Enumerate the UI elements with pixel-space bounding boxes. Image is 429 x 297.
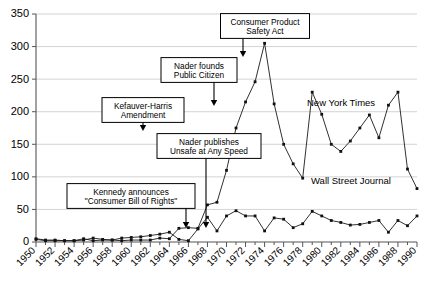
data-point [235,127,238,130]
data-point [311,91,314,94]
y-axis: 050100150200250300350 [11,7,36,247]
x-axis-tick-label: 1982 [319,244,343,268]
y-axis-tick-label: 150 [11,138,29,150]
data-point [397,91,400,94]
annotation-text: "Consumer Bill of Rights" [85,196,178,206]
data-point [168,231,171,234]
data-point [416,215,419,218]
data-point [92,237,95,240]
x-axis-tick-label: 1964 [147,244,171,268]
data-point [244,215,247,218]
series-label: New York Times [307,97,375,108]
data-point [177,227,180,230]
data-point [101,239,104,242]
data-point [158,233,161,236]
annotation-text: Amendment [121,110,166,120]
y-axis-tick-label: 200 [11,105,29,117]
data-point [44,239,47,242]
y-axis-tick-label: 50 [17,203,29,215]
y-axis-tick-label: 100 [11,170,29,182]
annotation-arrowhead [240,51,246,57]
data-point [244,101,247,104]
data-point [292,162,295,165]
data-point [139,239,142,242]
x-axis-tick-label: 1976 [262,244,286,268]
x-axis: 1950195219541956195819601962196419661968… [14,242,419,268]
data-point [273,103,276,106]
data-point [120,239,123,242]
annotation-cpsa: Consumer ProductSafety Act [221,14,310,57]
annotation-kefauver-harris: Kefauver-HarrisAmendment [102,98,184,131]
x-axis-tick-label: 1986 [357,244,381,268]
data-point [339,150,342,153]
x-axis-tick-label: 1958 [90,244,114,268]
data-point [149,234,152,237]
y-axis-tick-label: 350 [11,7,29,19]
annotations: Kennedy announces"Consumer Bill of Right… [67,14,310,228]
data-point [139,235,142,238]
data-point [378,136,381,139]
data-point [73,239,76,242]
x-axis-tick-label: 1950 [14,244,38,268]
annotation-text: Public Citizen [174,70,225,80]
data-point [368,114,371,117]
x-axis-tick-label: 1960 [109,244,133,268]
data-point [235,209,238,212]
data-point [187,239,190,242]
data-point [149,239,152,242]
line-chart: 050100150200250300350 195019521954195619… [0,0,429,297]
data-point [378,219,381,222]
data-point [216,201,219,204]
data-point [387,231,390,234]
data-point [282,218,285,221]
data-point [330,143,333,146]
data-point [254,215,257,218]
data-point [263,230,266,233]
annotation-nader-publishes: Nader publishesUnsafe at Any Speed [157,134,261,228]
data-point [130,236,133,239]
data-point [416,187,419,190]
data-point [130,239,133,242]
data-point [311,210,314,213]
data-point [92,239,95,242]
data-point [120,237,123,240]
x-axis-tick-label: 1978 [281,244,305,268]
data-point [397,219,400,222]
x-axis-tick-label: 1990 [395,244,419,268]
x-axis-tick-label: 1980 [300,244,324,268]
data-point [273,217,276,220]
data-point [292,226,295,229]
data-point [387,104,390,107]
data-point [282,143,285,146]
x-axis-tick-label: 1956 [71,244,95,268]
x-axis-tick-label: 1970 [204,244,228,268]
annotation-arrowhead [140,125,146,131]
x-axis-tick-label: 1972 [223,244,247,268]
data-point [225,215,228,218]
annotation-arrowhead [211,100,217,106]
data-point [263,42,266,45]
data-point [177,238,180,241]
annotation-text: Safety Act [246,26,284,36]
data-point [197,228,200,231]
x-axis-tick-label: 1984 [338,244,362,268]
x-axis-tick-label: 1952 [33,244,57,268]
data-point [158,237,161,240]
chart-container: 050100150200250300350 195019521954195619… [0,0,429,297]
data-point [63,239,66,242]
data-point [301,222,304,225]
data-point [187,226,190,229]
data-point [254,80,257,83]
x-axis-tick-label: 1962 [128,244,152,268]
data-point [168,237,171,240]
data-point [406,168,409,171]
data-point [111,239,114,242]
data-point [320,215,323,218]
x-axis-tick-label: 1954 [52,244,76,268]
data-point [330,219,333,222]
annotation-text: Unsafe at Any Speed [170,146,248,156]
data-point [368,221,371,224]
annotation-kennedy: Kennedy announces"Consumer Bill of Right… [67,184,195,228]
data-point [339,221,342,224]
data-point [320,113,323,116]
